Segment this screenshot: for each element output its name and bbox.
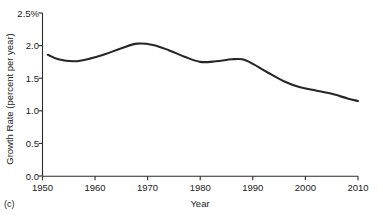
chart-figure: Growth Rate (percent per year) 2.5% 2.0 … [0, 0, 383, 216]
x-tick-label-1960: 1960 [84, 182, 105, 193]
x-tick-label-1950: 1950 [32, 182, 53, 193]
panel-label: (c) [4, 199, 15, 209]
y-tick-label-2-0: 2.0 [26, 40, 39, 51]
x-axis-title: Year [190, 198, 209, 209]
growth-rate-line-chart: Growth Rate (percent per year) 2.5% 2.0 … [0, 0, 383, 216]
y-axis-title: Growth Rate (percent per year) [4, 33, 15, 164]
y-tick-label-1-0: 1.0 [26, 105, 39, 116]
x-tick-label-2010: 2010 [347, 182, 368, 193]
x-tick-label-1980: 1980 [190, 182, 211, 193]
growth-rate-series-line [48, 43, 358, 101]
x-tick-label-1970: 1970 [137, 182, 158, 193]
x-tick-label-2000: 2000 [295, 182, 316, 193]
y-tick-label-0-5: 0.5 [26, 138, 39, 149]
y-tick-label-0-0: 0.0 [26, 171, 39, 182]
y-tick-label-2-5: 2.5% [17, 8, 39, 19]
x-tick-label-1990: 1990 [242, 182, 263, 193]
y-tick-label-1-5: 1.5 [26, 73, 39, 84]
